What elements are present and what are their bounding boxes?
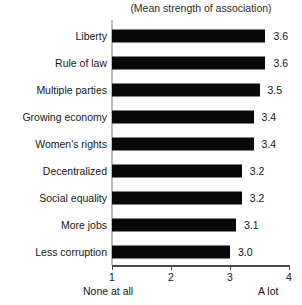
bar-fill bbox=[112, 218, 236, 231]
x-axis-line bbox=[112, 265, 289, 267]
bar-fill bbox=[112, 164, 242, 177]
bar-fill bbox=[112, 137, 254, 150]
bar-category-label: Social equality bbox=[39, 192, 107, 204]
bar-row: Multiple parties3.5 bbox=[0, 76, 302, 103]
bar-category-label: More jobs bbox=[61, 219, 107, 231]
bar-fill bbox=[112, 245, 230, 258]
bar-value-label: 3.1 bbox=[244, 219, 259, 231]
bar-row: Growing economy3.4 bbox=[0, 103, 302, 130]
bar-category-label: Multiple parties bbox=[36, 84, 107, 96]
chart-title: (Mean strength of association) bbox=[112, 2, 290, 15]
bar-value-label: 3.4 bbox=[262, 111, 277, 123]
bar-chart: (Mean strength of association) Liberty3.… bbox=[0, 0, 302, 305]
bar-row: Social equality3.2 bbox=[0, 184, 302, 211]
bar-row: Rule of law3.6 bbox=[0, 49, 302, 76]
x-axis-endpoint-label-left: None at all bbox=[83, 285, 133, 297]
bar-row: Less corruption3.0 bbox=[0, 238, 302, 265]
bar-category-label: Liberty bbox=[75, 30, 107, 42]
bar-fill bbox=[112, 110, 254, 123]
bar bbox=[112, 245, 230, 258]
x-axis-tick-label: 3 bbox=[227, 271, 233, 283]
bar-fill bbox=[112, 191, 242, 204]
x-axis-tick bbox=[289, 265, 290, 270]
bar-category-label: Less corruption bbox=[35, 246, 107, 258]
bar-row: Decentralized3.2 bbox=[0, 157, 302, 184]
x-axis-tick bbox=[230, 265, 231, 270]
x-axis-endpoint-label-right: A lot bbox=[258, 285, 278, 297]
x-axis-tick-label: 2 bbox=[168, 271, 174, 283]
bar bbox=[112, 191, 242, 204]
bar bbox=[112, 83, 260, 96]
x-axis-tick-label: 1 bbox=[109, 271, 115, 283]
bar-row: Women's rights3.4 bbox=[0, 130, 302, 157]
bar bbox=[112, 56, 265, 69]
bar-value-label: 3.6 bbox=[273, 57, 288, 69]
plot-area: Liberty3.6Rule of law3.6Multiple parties… bbox=[0, 20, 302, 266]
bar bbox=[112, 29, 265, 42]
bar-row: More jobs3.1 bbox=[0, 211, 302, 238]
x-axis-tick bbox=[171, 265, 172, 270]
bar-category-label: Growing economy bbox=[22, 111, 107, 123]
x-axis-tick bbox=[112, 265, 113, 270]
bar-fill bbox=[112, 56, 265, 69]
bar-value-label: 3.2 bbox=[250, 192, 265, 204]
bar bbox=[112, 218, 236, 231]
bar bbox=[112, 110, 254, 123]
bar-value-label: 3.6 bbox=[273, 30, 288, 42]
bar-fill bbox=[112, 29, 265, 42]
x-axis: 1234 None at all A lot bbox=[0, 265, 302, 305]
bar bbox=[112, 137, 254, 150]
bar-value-label: 3.5 bbox=[268, 84, 283, 96]
x-axis-tick-label: 4 bbox=[286, 271, 292, 283]
bar bbox=[112, 164, 242, 177]
bar-fill bbox=[112, 83, 260, 96]
bar-value-label: 3.2 bbox=[250, 165, 265, 177]
bar-value-label: 3.0 bbox=[238, 246, 253, 258]
bar-row: Liberty3.6 bbox=[0, 22, 302, 49]
bar-category-label: Rule of law bbox=[55, 57, 107, 69]
bar-category-label: Women's rights bbox=[35, 138, 107, 150]
bar-category-label: Decentralized bbox=[43, 165, 107, 177]
bar-value-label: 3.4 bbox=[262, 138, 277, 150]
